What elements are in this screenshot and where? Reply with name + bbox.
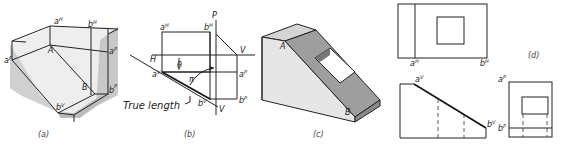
side-view-hole <box>522 97 548 114</box>
label-true-length: True length <box>123 100 180 111</box>
orthographic-projection-figure: a H b H a F a P A B b V b P (a) <box>0 0 563 145</box>
svg-text:F: F <box>9 55 12 61</box>
svg-text:P: P <box>114 83 117 89</box>
svg-text:P: P <box>503 123 506 129</box>
true-length-leader <box>185 96 190 104</box>
svg-text:H: H <box>415 58 419 64</box>
svg-text:H: H <box>485 58 489 64</box>
side-view <box>509 82 552 137</box>
svg-text:V: V <box>420 74 424 80</box>
svg-text:V: V <box>61 102 65 108</box>
caption-c: (c) <box>313 130 324 139</box>
svg-text:H: H <box>209 22 213 28</box>
top-view-hole <box>437 17 464 44</box>
svg-text:H: H <box>59 16 63 22</box>
label-B: B <box>345 108 351 117</box>
label-P: P <box>212 11 217 20</box>
label-A: A <box>47 46 53 55</box>
caption-d: (d) <box>528 51 539 60</box>
panel-c: A B (c) <box>262 24 380 139</box>
label-phi: π <box>189 75 194 84</box>
panel-a: a H b H a F a P A B b V b P (a) <box>4 16 118 139</box>
label-H: H <box>150 55 156 64</box>
panel-b: a H b H P H V V a V b V a P b P θ π True… <box>123 11 255 139</box>
label-V-top: V <box>240 46 246 55</box>
miter-line <box>216 34 237 55</box>
arrowhead <box>210 66 214 70</box>
svg-text:V: V <box>157 69 161 75</box>
label-B: B <box>82 83 88 92</box>
front-view-inclined-edge <box>414 84 486 128</box>
svg-text:P: P <box>114 46 117 52</box>
front-view-outline <box>400 84 486 138</box>
caption-b: (b) <box>184 130 195 139</box>
label-V-bottom: V <box>219 105 225 114</box>
svg-text:H: H <box>165 22 169 28</box>
top-view <box>398 4 487 58</box>
label-A: A <box>279 42 285 51</box>
svg-text:P: P <box>503 74 506 80</box>
label-theta: θ <box>177 61 182 70</box>
svg-text:P: P <box>244 95 247 101</box>
top-view-rect <box>162 32 210 72</box>
caption-a: (a) <box>38 130 49 139</box>
svg-text:V: V <box>203 98 207 104</box>
svg-text:H: H <box>93 19 97 25</box>
true-length-line <box>162 72 210 99</box>
panel-d: a H b H (d) a V b V a P b P <box>398 4 552 138</box>
svg-text:P: P <box>244 69 247 75</box>
svg-text:V: V <box>492 119 496 125</box>
